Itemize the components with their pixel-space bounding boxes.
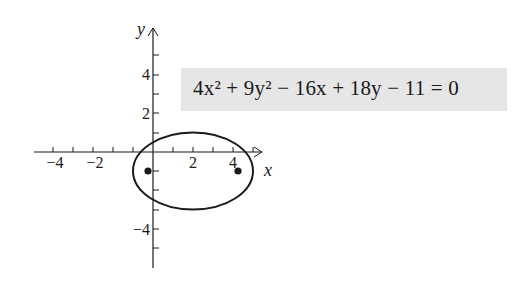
x-tick-label-neg4: −4 [46,154,63,171]
y-tick-label-2: 2 [142,105,150,122]
x-axis-label: x [263,160,272,180]
y-tick-label-4: 4 [142,66,150,83]
coordinate-plane: −4 −2 2 4 4 2 −4 x y [0,0,523,286]
x-tick-label-4: 4 [229,154,237,171]
x-tick-label-neg2: −2 [86,154,103,171]
focus-point-left [144,167,151,174]
ellipse-equation: 4x² + 9y² − 16x + 18y − 11 = 0 [193,76,459,101]
x-tick-label-2: 2 [189,154,197,171]
y-axis-label: y [135,19,145,39]
y-tick-label-neg4: −4 [133,221,150,238]
